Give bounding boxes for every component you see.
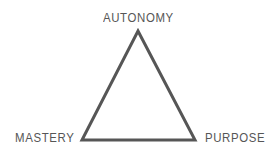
triangle-outline	[82, 31, 195, 140]
vertex-label-autonomy: AUTONOMY	[103, 11, 174, 24]
vertex-label-mastery: MASTERY	[15, 131, 74, 144]
diagram-canvas: AUTONOMY MASTERY PURPOSE	[0, 0, 278, 157]
vertex-label-purpose: PURPOSE	[205, 131, 265, 144]
